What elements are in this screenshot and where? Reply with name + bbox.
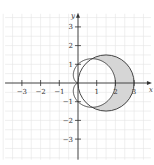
polar-graph: −3−2−1123321−1−2−3 x y [0, 0, 154, 165]
y-tick-label: 3 [69, 23, 73, 31]
x-tick-label: 3 [132, 88, 136, 96]
y-axis-label: y [70, 12, 76, 20]
y-axis-arrow-icon [76, 13, 80, 18]
x-tick-label: −1 [54, 88, 64, 96]
x-tick-label: 2 [113, 88, 117, 96]
y-tick-label: −3 [63, 136, 73, 144]
x-axis-arrow-icon [147, 81, 152, 85]
x-tick-label: −3 [17, 88, 27, 96]
y-tick-label: 2 [69, 42, 73, 50]
x-tick-label: 1 [94, 88, 98, 96]
x-axis-label: x [149, 86, 153, 94]
x-tick-label: −2 [35, 88, 45, 96]
y-tick-label: 1 [69, 61, 73, 69]
y-tick-label: −1 [63, 98, 73, 106]
graph-canvas: −3−2−1123321−1−2−3 x y [0, 0, 154, 165]
y-tick-label: −2 [63, 117, 73, 125]
